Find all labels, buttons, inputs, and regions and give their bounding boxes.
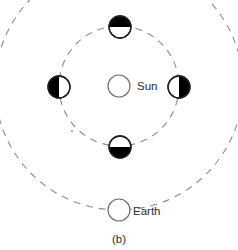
- scan-speck: [71, 130, 73, 132]
- sun-body: [108, 75, 130, 97]
- figure-container: Sun Earth (b): [0, 0, 238, 250]
- sun-circle: [108, 75, 130, 97]
- earth-circle: [108, 199, 130, 221]
- moon-top-shadow: [109, 16, 131, 27]
- moon-right: [168, 76, 190, 98]
- earth-label: Earth: [133, 205, 161, 217]
- moon-left-shadow: [48, 76, 59, 98]
- moon-left: [48, 76, 70, 98]
- figure-caption: (b): [112, 233, 126, 245]
- moon-bottom-shadow: [109, 147, 131, 158]
- sun-label: Sun: [137, 80, 157, 92]
- moon-top: [109, 16, 131, 38]
- moon-right-shadow: [179, 76, 190, 98]
- orbit-diagram: Sun Earth (b): [0, 0, 238, 250]
- earth-body: [108, 199, 130, 221]
- moon-bottom: [109, 136, 131, 158]
